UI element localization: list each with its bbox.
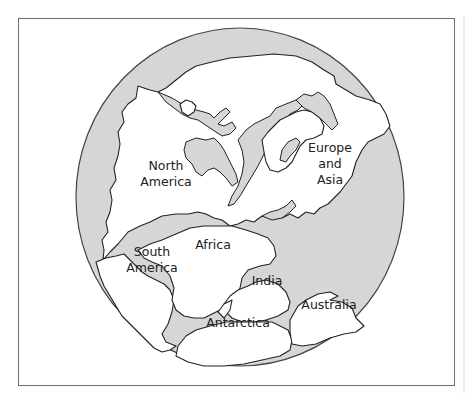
label-north-america: North America bbox=[131, 158, 201, 190]
label-australia: Australia bbox=[292, 297, 366, 313]
label-africa: Africa bbox=[188, 237, 238, 253]
label-south-america: South America bbox=[117, 244, 187, 276]
label-india: India bbox=[247, 273, 287, 289]
label-antarctica: Antarctica bbox=[198, 315, 278, 331]
label-europe-asia: Europe and Asia bbox=[300, 140, 360, 188]
pangaea-globe bbox=[0, 0, 472, 393]
